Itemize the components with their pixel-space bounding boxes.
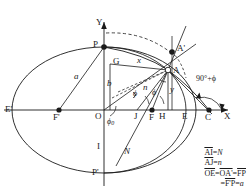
angle-phi0-subscript: 0 [111, 120, 114, 126]
angle-arc-phi-at-F [160, 96, 164, 104]
point-label-G: G [113, 57, 120, 66]
marker-P [101, 44, 107, 50]
angle-arc-at-A [160, 80, 166, 82]
legend: AI=N AJ=n OE=OA'=FP =F'P=a [204, 148, 246, 190]
point-label-J: J [134, 112, 138, 121]
point-label-H: H [159, 112, 166, 121]
segment-label-N: N [124, 147, 130, 156]
legend-line-AJ: AJ=n [204, 158, 246, 169]
marker-A [165, 67, 171, 73]
point-label-I: I [97, 142, 100, 151]
legend-AI-rhs: N [217, 148, 222, 157]
point-label-P: P [93, 40, 98, 49]
legend-OE-p2: OA' [220, 169, 233, 178]
legend-AI-lhs: AI [204, 148, 212, 157]
angle-label-phi0: ϕ0 [107, 118, 114, 126]
legend-OE-p0: OE [204, 169, 215, 178]
dashed-transfer-arc [106, 33, 175, 56]
point-label-A: A [173, 66, 180, 75]
point-label-O: O [95, 112, 102, 121]
point-label-E: E [182, 112, 188, 121]
axis-label-y: Y [96, 18, 103, 27]
legend-FP-p3: a [240, 179, 244, 188]
legend-line-AI: AI=N [204, 148, 246, 159]
segment-label-a: a [74, 72, 79, 81]
angle-arc-phi0 [110, 106, 116, 116]
segment-label-y: y [170, 85, 174, 94]
figure-canvas: X Y E' F' O J F H E C P P' A A' G I N a … [0, 0, 249, 192]
marker-Aprime [169, 49, 175, 55]
point-label-Pprime: P' [92, 168, 99, 177]
point-label-C: C [205, 113, 211, 122]
angle-label-phi-2: ϕ [152, 89, 156, 97]
segment-label-b: b [107, 79, 112, 88]
legend-AJ-rhs: n [218, 158, 222, 167]
angle-label-exterior: 90°+ϕ [196, 75, 216, 83]
point-label-Fprime: F' [53, 113, 60, 122]
axis-label-x: X [224, 112, 231, 121]
point-label-Eprime: E' [5, 105, 12, 114]
segment-a-Fprime-P [59, 47, 104, 110]
legend-line-OE: OE=OA'=FP [204, 169, 246, 180]
angle-label-phi-1: ϕ [133, 90, 137, 98]
segment-label-n: n [143, 83, 148, 92]
point-label-Aprime: A' [177, 44, 185, 53]
legend-line-FP: =F'P=a [204, 179, 246, 190]
point-label-F: F [149, 113, 154, 122]
legend-FP-p1: F'P [225, 179, 235, 188]
segment-label-x: x [137, 56, 141, 65]
legend-AJ-lhs: AJ [204, 158, 213, 167]
legend-OE-p4: FP [237, 169, 246, 178]
